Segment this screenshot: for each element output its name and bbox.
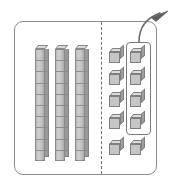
unit-cube-3[interactable] [109,70,125,85]
rod-segment-line-side [84,105,89,106]
rod-segment-line-side [44,150,49,151]
cube-front-face [109,144,120,155]
ten-rod-2[interactable] [55,45,68,161]
rod-side-face [65,49,69,157]
cube-side-face [120,88,124,103]
rod-segment-line-side [84,94,89,95]
cube-side-face [141,136,145,151]
unit-cube-10[interactable] [130,140,146,155]
unit-cube-5[interactable] [109,92,125,107]
arrow-head [151,11,168,22]
cube-side-face [120,136,124,151]
rod-segment-line-side [44,139,49,140]
rod-segment-line-side [84,83,89,84]
rod-segment-line-side [84,139,89,140]
rod-side-face [85,49,89,157]
cube-front-face [109,52,120,63]
diagram-canvas [0,0,175,188]
rod-segment-line-side [44,94,49,95]
rod-segment-line-side [64,150,69,151]
rod-segment-line-side [64,83,69,84]
selection-highlight-box[interactable] [126,42,151,135]
unit-cube-7[interactable] [109,114,125,129]
rod-segment-line-side [44,83,49,84]
ten-rod-1[interactable] [35,45,48,161]
rod-segment-line-side [84,150,89,151]
rod-segment-line-side [64,105,69,106]
ten-rod-3[interactable] [75,45,88,161]
rod-segment-line-side [64,94,69,95]
cube-front-face [109,96,120,107]
cube-front-face [130,144,141,155]
rod-segment-line-side [44,105,49,106]
cube-side-face [120,44,124,59]
place-value-divider [101,22,102,174]
unit-cube-9[interactable] [109,140,125,155]
rod-side-face [45,49,49,157]
cube-side-face [120,66,124,81]
cube-side-face [120,110,124,125]
cube-front-face [109,118,120,129]
unit-cube-1[interactable] [109,48,125,63]
rod-segment-line-side [64,139,69,140]
cube-front-face [109,74,120,85]
